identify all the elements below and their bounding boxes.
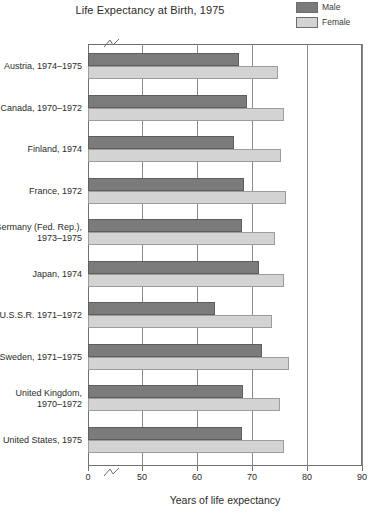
axis-break-top-icon: [104, 38, 120, 48]
bar-female: [88, 232, 275, 245]
x-tick-label-80: 80: [297, 472, 317, 482]
x-tick-50: [142, 466, 143, 471]
x-tick-label-0: 0: [78, 472, 98, 482]
bar-male: [88, 95, 247, 108]
x-tick-0: [88, 466, 89, 471]
x-axis-title: Years of life expectancy: [88, 494, 362, 506]
category-label: United States, 1975: [0, 435, 82, 446]
legend-swatch-male-icon: [296, 2, 318, 13]
bar-female: [88, 66, 278, 79]
legend-item-male: Male: [296, 2, 362, 13]
category-label: U.S.S.R. 1971–1972: [0, 310, 82, 321]
x-tick-80: [307, 466, 308, 471]
bar-female: [88, 440, 284, 453]
bar-male: [88, 385, 243, 398]
bar-male: [88, 427, 242, 440]
x-tick-90: [362, 466, 363, 471]
bar-female: [88, 315, 272, 328]
gridline-90: [362, 44, 363, 466]
x-tick-label-50: 50: [132, 472, 152, 482]
bar-male: [88, 261, 259, 274]
legend-swatch-female-icon: [296, 17, 318, 28]
category-label: Japan, 1974: [0, 269, 82, 280]
category-label: France, 1972: [0, 186, 82, 197]
category-label: Canada, 1970–1972: [0, 103, 82, 114]
x-tick-60: [197, 466, 198, 471]
category-label: Austria, 1974–1975: [0, 61, 82, 72]
chart-title: Life Expectancy at Birth, 1975: [0, 4, 300, 16]
bar-male: [88, 53, 239, 66]
x-tick-70: [252, 466, 253, 471]
axis-break-bottom-icon: [104, 466, 120, 477]
bar-female: [88, 357, 289, 370]
gridline-80: [307, 44, 308, 466]
bar-female: [88, 149, 281, 162]
bar-male: [88, 219, 242, 232]
category-label: Sweden, 1971–1975: [0, 352, 82, 363]
x-tick-label-70: 70: [242, 472, 262, 482]
bar-male: [88, 136, 234, 149]
x-axis-line: [88, 465, 363, 466]
category-label: United Kingdom,1970–1972: [0, 388, 82, 410]
category-label: Finland, 1974: [0, 144, 82, 155]
bar-female: [88, 191, 286, 204]
bar-male: [88, 302, 215, 315]
bar-male: [88, 344, 262, 357]
category-label: Germany (Fed. Rep.),1973–1975: [0, 222, 82, 244]
bar-female: [88, 398, 280, 411]
legend-item-female: Female: [296, 17, 362, 28]
bar-male: [88, 178, 244, 191]
x-tick-label-90: 90: [352, 472, 372, 482]
bar-female: [88, 108, 284, 121]
legend-label-male: Male: [322, 2, 340, 13]
x-tick-label-60: 60: [187, 472, 207, 482]
chart-legend: Male Female: [296, 2, 362, 32]
bar-female: [88, 274, 284, 287]
legend-label-female: Female: [322, 17, 350, 28]
